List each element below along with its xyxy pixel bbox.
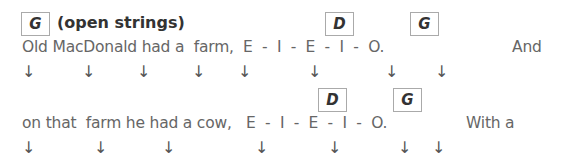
strum-down-arrow-icon: ↓ [385, 64, 398, 80]
strum-down-arrow-icon: ↓ [398, 140, 411, 156]
lyric-text: E - I - E - I - O. [246, 114, 387, 132]
lyric-text: E - I - E - I - O. [243, 38, 384, 56]
strum-down-arrow-icon: ↓ [22, 140, 35, 156]
chord-box-d: D [325, 12, 354, 36]
strum-down-arrow-icon: ↓ [328, 140, 341, 156]
lyric-text: Old MacDonald had a farm, [22, 38, 234, 56]
strum-down-arrow-icon: ↓ [94, 140, 107, 156]
strum-down-arrow-icon: ↓ [192, 64, 205, 80]
strum-down-arrow-icon: ↓ [162, 140, 175, 156]
chord-note: (open strings) [57, 13, 185, 32]
chord-box-g: G [21, 12, 50, 36]
lyric-text: on that farm he had a cow, [22, 114, 232, 132]
chord-box-d: D [318, 88, 347, 112]
strum-down-arrow-icon: ↓ [238, 64, 251, 80]
strum-down-arrow-icon: ↓ [308, 64, 321, 80]
strum-down-arrow-icon: ↓ [255, 140, 268, 156]
strum-down-arrow-icon: ↓ [137, 64, 150, 80]
strum-down-arrow-icon: ↓ [432, 140, 445, 156]
lyric-text: With a [466, 114, 514, 132]
chord-box-g: G [410, 12, 439, 36]
strum-down-arrow-icon: ↓ [82, 64, 95, 80]
lyric-text: And [512, 38, 542, 56]
chord-box-g: G [393, 88, 422, 112]
strum-down-arrow-icon: ↓ [435, 64, 448, 80]
strum-down-arrow-icon: ↓ [22, 64, 35, 80]
